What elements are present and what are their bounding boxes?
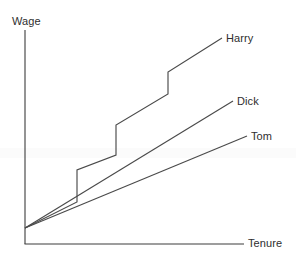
wage-tenure-chart: Wage Tenure Harry Dick Tom xyxy=(0,0,296,261)
y-axis-label: Wage xyxy=(12,15,41,27)
x-axis-label: Tenure xyxy=(248,237,282,249)
series-label-dick: Dick xyxy=(237,95,259,107)
series-label-harry: Harry xyxy=(226,32,253,44)
series-label-tom: Tom xyxy=(251,130,272,142)
